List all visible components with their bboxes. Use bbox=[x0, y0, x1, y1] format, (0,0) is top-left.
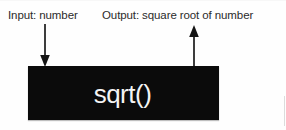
process-block: sqrt() bbox=[28, 66, 219, 120]
output-label: Output: square root of number bbox=[102, 9, 253, 22]
scan-artifact-top bbox=[0, 0, 286, 1]
input-label: Input: number bbox=[8, 9, 78, 22]
output-arrow-icon bbox=[185, 24, 203, 68]
process-block-label: sqrt() bbox=[94, 81, 152, 107]
diagram-canvas: Input: number Output: square root of num… bbox=[0, 0, 286, 130]
scan-artifact-right bbox=[284, 96, 285, 126]
input-arrow-icon bbox=[36, 24, 54, 68]
